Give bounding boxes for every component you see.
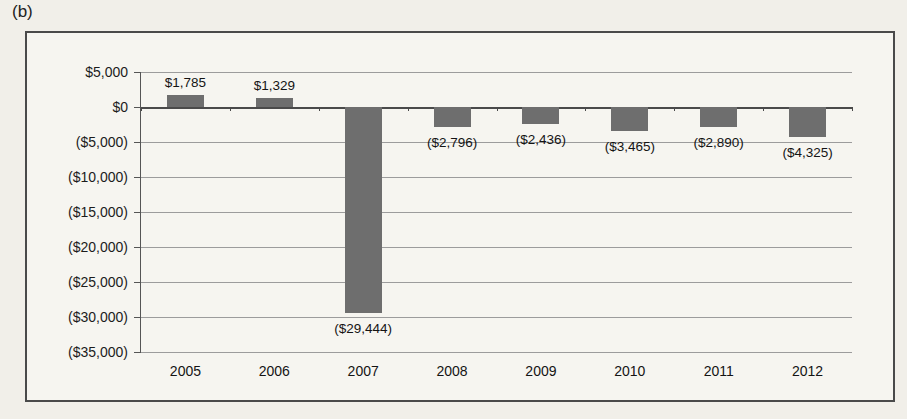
bar-value-label: ($2,796): [427, 135, 477, 150]
bar-2009: [522, 107, 559, 124]
bar-2011: [700, 107, 737, 127]
gridline: [141, 142, 852, 143]
bar-2005: [167, 95, 204, 107]
y-axis-tick-label: ($5,000): [76, 134, 141, 150]
x-axis-label-2005: 2005: [170, 363, 201, 379]
bar-value-label: ($3,465): [605, 139, 655, 154]
x-axis-tick: [674, 107, 675, 111]
x-axis-label-2012: 2012: [792, 363, 823, 379]
bar-2012: [789, 107, 826, 137]
bar-value-label: ($2,436): [516, 132, 566, 147]
y-axis-tick-label: ($30,000): [68, 309, 141, 325]
bar-value-label: $1,785: [165, 75, 206, 90]
x-axis-tick: [497, 107, 498, 111]
gridline: [141, 247, 852, 248]
x-axis-tick: [319, 107, 320, 111]
y-axis-tick-label: ($10,000): [68, 169, 141, 185]
page: { "figure_label": "(b)", "colors": { "ba…: [0, 0, 907, 419]
y-axis-tick-label: ($35,000): [68, 344, 141, 360]
bar-2008: [434, 107, 471, 127]
y-axis-tick-label: ($20,000): [68, 239, 141, 255]
plot-area: $5,000$0($5,000)($10,000)($15,000)($20,0…: [140, 72, 852, 352]
x-axis-label-2006: 2006: [259, 363, 290, 379]
chart-frame: $5,000$0($5,000)($10,000)($15,000)($20,0…: [25, 31, 895, 402]
gridline: [141, 177, 852, 178]
x-axis-label-2009: 2009: [525, 363, 556, 379]
gridline: [141, 317, 852, 318]
x-axis-tick: [585, 107, 586, 111]
x-axis-label-2008: 2008: [436, 363, 467, 379]
y-axis-tick-label: $5,000: [85, 64, 141, 80]
y-axis-tick-label: $0: [112, 99, 141, 115]
bar-value-label: ($4,325): [782, 145, 832, 160]
gridline: [141, 352, 852, 353]
x-axis-label-2010: 2010: [614, 363, 645, 379]
bar-2010: [611, 107, 648, 131]
gridline: [141, 72, 852, 73]
figure-label: (b): [12, 2, 33, 22]
gridline: [141, 282, 852, 283]
bar-2007: [345, 107, 382, 313]
bar-value-label: ($29,444): [334, 321, 392, 336]
x-axis-tick: [230, 107, 231, 111]
y-axis-tick-label: ($15,000): [68, 204, 141, 220]
x-axis-tick: [852, 107, 853, 111]
y-axis-tick-label: ($25,000): [68, 274, 141, 290]
x-axis-tick: [408, 107, 409, 111]
x-axis-label-2011: 2011: [704, 363, 734, 379]
gridline: [141, 212, 852, 213]
x-axis-tick: [141, 107, 142, 111]
bar-value-label: $1,329: [254, 78, 295, 93]
bar-value-label: ($2,890): [694, 135, 744, 150]
bar-2006: [256, 98, 293, 107]
x-axis-label-2007: 2007: [348, 363, 379, 379]
x-axis-tick: [763, 107, 764, 111]
